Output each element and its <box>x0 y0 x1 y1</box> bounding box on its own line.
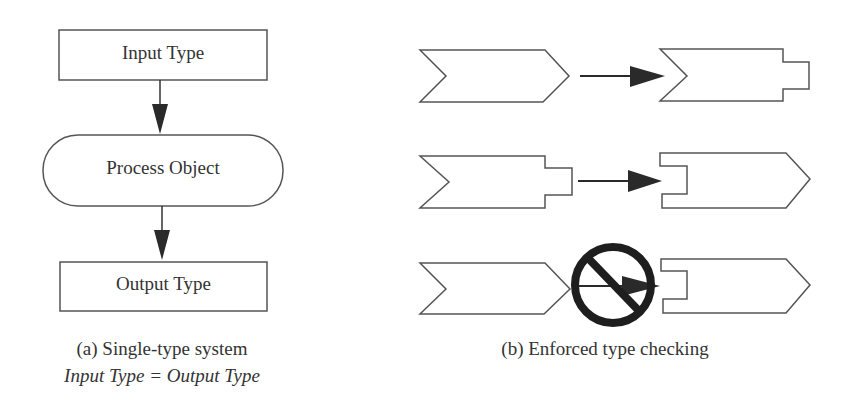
row1-source-chevron <box>420 50 569 102</box>
row2-target-slotted-arrow <box>660 153 810 208</box>
output-type-label: Output Type <box>60 273 267 295</box>
row3-source-chevron <box>420 263 570 314</box>
subcaption-a: Input Type = Output Type <box>0 365 324 387</box>
row1-target-chevron-tab <box>660 49 809 101</box>
row2-arrowhead <box>628 170 662 192</box>
process-object-label: Process Object <box>43 157 283 179</box>
caption-b: (b) Enforced type checking <box>460 338 750 360</box>
arrowhead-down-2 <box>154 230 170 260</box>
row3-target-slotted-arrow <box>661 259 810 313</box>
caption-a: (a) Single-type system <box>0 338 324 360</box>
arrowhead-down-1 <box>152 104 168 134</box>
row1-arrowhead <box>630 66 665 87</box>
input-type-label: Input Type <box>59 42 267 64</box>
row2-source-chevron-tab <box>420 156 572 208</box>
